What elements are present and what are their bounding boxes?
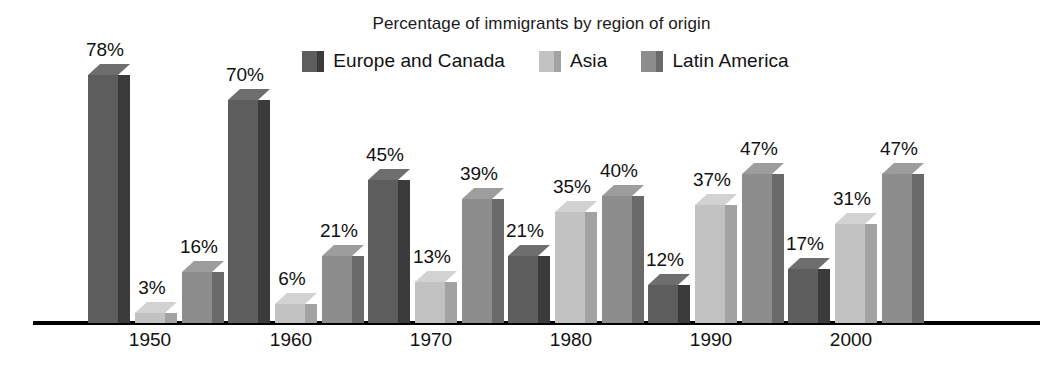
bar-side-face — [538, 256, 550, 323]
bar-side-face — [492, 199, 504, 323]
bar[interactable] — [602, 185, 644, 323]
bar-top-face — [135, 302, 177, 313]
bar-top-face — [882, 163, 924, 174]
bar-value-label: 45% — [366, 144, 404, 166]
bar-front-face — [415, 282, 445, 323]
bar-front-face — [835, 224, 865, 323]
bar-value-label: 12% — [646, 249, 684, 271]
bar-side-face — [678, 285, 690, 323]
bar-value-label: 40% — [600, 160, 638, 182]
bar-front-face — [648, 285, 678, 323]
bar-value-label: 47% — [740, 138, 778, 160]
bar-side-face — [818, 269, 830, 323]
bar-side-face — [585, 212, 597, 323]
bar-side-face — [725, 205, 737, 323]
bar-front-face — [695, 205, 725, 323]
bar[interactable] — [648, 274, 690, 323]
bar-side-face — [912, 174, 924, 323]
bar[interactable] — [882, 163, 924, 323]
bar-value-label: 3% — [138, 277, 165, 299]
bar[interactable] — [788, 258, 830, 323]
bar-front-face — [135, 313, 165, 323]
bar[interactable] — [368, 169, 410, 323]
x-axis-tick-label: 1950 — [110, 329, 190, 351]
bar[interactable] — [508, 245, 550, 323]
bar-value-label: 17% — [786, 233, 824, 255]
bar[interactable] — [695, 194, 737, 323]
bar-side-face — [398, 180, 410, 323]
bar[interactable] — [88, 64, 130, 323]
bar-side-face — [865, 224, 877, 323]
bar[interactable] — [462, 188, 504, 323]
bar-top-face — [88, 64, 130, 75]
bar-top-face — [182, 261, 224, 272]
bar-front-face — [368, 180, 398, 323]
bar-top-face — [788, 258, 830, 269]
bar-side-face — [305, 304, 317, 323]
bar-top-face — [415, 271, 457, 282]
bar-top-face — [368, 169, 410, 180]
bar[interactable] — [322, 245, 364, 323]
bar[interactable] — [182, 261, 224, 323]
x-axis-tick-label: 1990 — [671, 329, 751, 351]
bar-value-label: 39% — [460, 163, 498, 185]
bar[interactable] — [275, 293, 317, 323]
bar-top-face — [322, 245, 364, 256]
bar-front-face — [508, 256, 538, 323]
bar-side-face — [212, 272, 224, 323]
bar-value-label: 6% — [278, 268, 305, 290]
bar[interactable] — [835, 213, 877, 323]
bar-top-face — [462, 188, 504, 199]
bar-top-face — [508, 245, 550, 256]
bar-value-label: 13% — [413, 246, 451, 268]
bar[interactable] — [555, 201, 597, 323]
bar-value-label: 37% — [693, 169, 731, 191]
bar-top-face — [695, 194, 737, 205]
bar-value-label: 21% — [506, 220, 544, 242]
bar-top-face — [602, 185, 644, 196]
x-axis-tick-label: 2000 — [811, 329, 891, 351]
bar-top-face — [228, 89, 270, 100]
bar[interactable] — [742, 163, 784, 323]
bar-value-label: 78% — [86, 39, 124, 61]
bar-front-face — [88, 75, 118, 323]
bar-value-label: 70% — [226, 64, 264, 86]
bar-side-face — [352, 256, 364, 323]
bar-front-face — [182, 272, 212, 323]
bar-value-label: 21% — [320, 220, 358, 242]
bar-front-face — [462, 199, 492, 323]
bar-value-label: 35% — [553, 176, 591, 198]
x-axis-tick-label: 1980 — [531, 329, 611, 351]
bar[interactable] — [228, 89, 270, 323]
bar-side-face — [118, 75, 130, 323]
bar-side-face — [632, 196, 644, 323]
bar-front-face — [882, 174, 912, 323]
bar-value-label: 16% — [180, 236, 218, 258]
bar-side-face — [772, 174, 784, 323]
bar-front-face — [788, 269, 818, 323]
bar-top-face — [835, 213, 877, 224]
x-axis-tick-label: 1960 — [251, 329, 331, 351]
bar-front-face — [602, 196, 632, 323]
bar-side-face — [258, 100, 270, 323]
bar-front-face — [742, 174, 772, 323]
bar-side-face — [445, 282, 457, 323]
plot-area: 78%3%16%195070%6%21%196045%13%39%197021%… — [0, 0, 1063, 367]
bar-value-label: 47% — [880, 138, 918, 160]
bar-front-face — [555, 212, 585, 323]
bar-top-face — [648, 274, 690, 285]
bar[interactable] — [415, 271, 457, 323]
bar-top-face — [555, 201, 597, 212]
bar-side-face — [165, 313, 177, 323]
bar-chart: Percentage of immigrants by region of or… — [0, 0, 1063, 367]
bar[interactable] — [135, 302, 177, 323]
bar-top-face — [742, 163, 784, 174]
x-axis-tick-label: 1970 — [391, 329, 471, 351]
bar-top-face — [275, 293, 317, 304]
bar-front-face — [275, 304, 305, 323]
bar-front-face — [228, 100, 258, 323]
bar-value-label: 31% — [833, 188, 871, 210]
bar-front-face — [322, 256, 352, 323]
